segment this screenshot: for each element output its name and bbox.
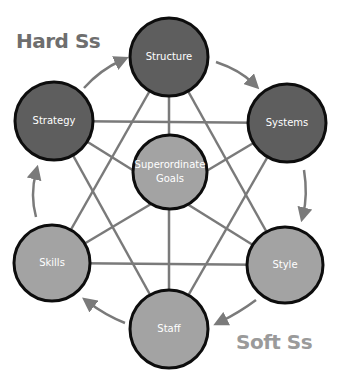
node-skills-label: Skills	[39, 257, 65, 268]
node-style-label: Style	[272, 259, 297, 270]
node-staff: Staff	[130, 290, 208, 368]
node-skills: Skills	[14, 225, 90, 301]
arrow-staff-to-skills	[88, 302, 125, 323]
node-superordinate-goals: Superordinate Goals	[133, 135, 207, 209]
node-strategy-label: Strategy	[33, 115, 76, 126]
node-style: Style	[247, 227, 323, 303]
node-structure: Structure	[130, 18, 208, 96]
seven-s-diagram: Structure Strategy Systems Superordinate…	[0, 0, 338, 382]
node-structure-label: Structure	[146, 51, 193, 62]
arrow-strategy-to-structure	[84, 60, 122, 88]
arrow-systems-to-style	[303, 170, 306, 215]
node-strategy: Strategy	[15, 82, 93, 160]
node-goals-label-line2: Goals	[156, 173, 184, 184]
node-staff-label: Staff	[157, 323, 181, 334]
node-systems-label: Systems	[266, 117, 309, 128]
arrow-style-to-staff	[220, 300, 256, 322]
node-goals-label-line1: Superordinate	[135, 159, 206, 170]
arrow-structure-to-systems	[216, 62, 254, 84]
node-systems: Systems	[248, 84, 326, 162]
arrow-skills-to-strategy	[33, 172, 36, 217]
